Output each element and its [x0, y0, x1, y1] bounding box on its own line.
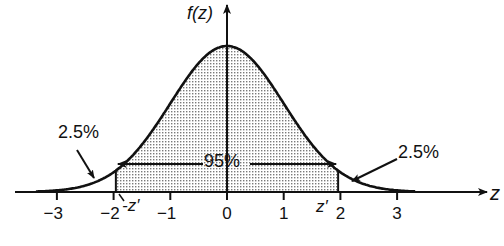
normal-distribution-diagram: z f(z) −3−2−10123 95% 2.5% 2.5% -z′ z′ — [0, 0, 504, 246]
left-tail-arrow — [77, 150, 94, 178]
x-tick-label: 1 — [279, 204, 288, 223]
right-tail-arrow — [352, 159, 397, 181]
left-tail-label: 2.5% — [58, 122, 99, 142]
y-axis-label: f(z) — [187, 3, 213, 23]
upper-critical-label: z′ — [315, 197, 329, 216]
right-tail-label: 2.5% — [398, 142, 439, 162]
x-tick-label: 3 — [392, 204, 401, 223]
x-tick-label: −2 — [100, 204, 119, 223]
x-tick-label: −1 — [157, 204, 176, 223]
x-axis-label: z — [489, 182, 500, 204]
lower-critical-label: -z′ — [122, 196, 140, 215]
central-area-label: 95% — [204, 151, 240, 171]
x-tick-label: 2 — [336, 204, 345, 223]
x-tick-label: −3 — [44, 204, 63, 223]
x-tick-label: 0 — [222, 204, 231, 223]
